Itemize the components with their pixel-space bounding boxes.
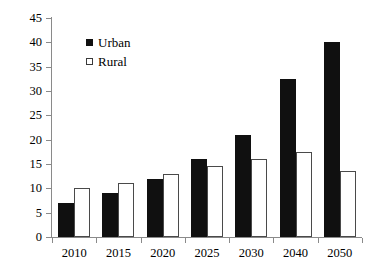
x-axis-tick — [362, 238, 363, 243]
y-axis-label: 30 — [0, 85, 42, 97]
bar-rural — [251, 159, 267, 237]
x-axis-tick — [52, 238, 53, 243]
x-axis-tick — [273, 238, 274, 243]
bar-urban — [235, 135, 251, 237]
x-axis-tick — [141, 238, 142, 243]
x-axis-tick — [185, 238, 186, 243]
y-axis-label: 20 — [0, 134, 42, 146]
y-axis-label: 40 — [0, 36, 42, 48]
y-axis-label: 15 — [0, 158, 42, 170]
x-axis-tick — [318, 238, 319, 243]
bar-rural — [340, 171, 356, 237]
bar-rural — [163, 174, 179, 237]
x-axis-tick — [229, 238, 230, 243]
bar-rural — [296, 152, 312, 237]
x-axis-tick — [96, 238, 97, 243]
y-axis-label: 25 — [0, 109, 42, 121]
bar-rural — [207, 166, 223, 237]
y-axis-label: 5 — [0, 207, 42, 219]
bar-group — [147, 18, 179, 237]
x-axis-line — [51, 237, 362, 238]
y-axis-label: 0 — [0, 231, 42, 243]
bar-group — [280, 18, 312, 237]
bar-group — [191, 18, 223, 237]
bar-urban — [58, 203, 74, 237]
bar-group — [235, 18, 267, 237]
y-axis-label: 35 — [0, 61, 42, 73]
bar-group — [102, 18, 134, 237]
y-axis-label: 45 — [0, 12, 42, 24]
y-axis-label: 10 — [0, 182, 42, 194]
bar-urban — [147, 179, 163, 237]
bar-urban — [102, 193, 118, 237]
bar-group — [324, 18, 356, 237]
bar-urban — [191, 159, 207, 237]
x-axis-label: 2050 — [310, 246, 370, 260]
bar-urban — [280, 79, 296, 237]
bar-rural — [118, 183, 134, 237]
bar-group — [58, 18, 90, 237]
bar-chart: 051015202530354045 201020152020202520302… — [0, 0, 373, 269]
bar-urban — [324, 42, 340, 237]
bar-rural — [74, 188, 90, 237]
